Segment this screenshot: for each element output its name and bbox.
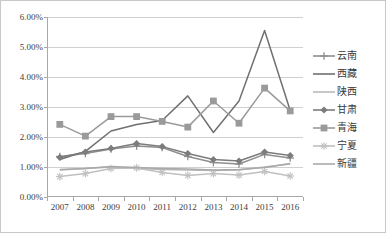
legend-item-青海[interactable]: 青海 [313, 119, 383, 137]
series-plot [47, 17, 303, 197]
x-axis-tick-mark [201, 197, 202, 201]
x-axis-tick-mark [98, 197, 99, 201]
data-point-plus [320, 52, 328, 60]
chart-legend: 云南西藏陕西甘肃青海宁夏新疆 [313, 47, 383, 173]
data-point-diamond [56, 154, 63, 161]
series-line [60, 31, 290, 160]
plot-wrapper: 0.00%1.00%2.00%3.00%4.00%5.00%6.00% 2007… [47, 17, 303, 197]
y-axis-tick-label: 6.00% [20, 13, 43, 22]
x-axis-tick-mark [175, 197, 176, 201]
series-青海 [56, 85, 293, 140]
legend-swatch-icon [313, 85, 335, 99]
data-point-star [286, 172, 294, 180]
series-新疆 [60, 163, 290, 170]
data-point-square [82, 133, 89, 140]
x-axis-tick-mark [124, 197, 125, 201]
legend-item-label: 甘肃 [337, 105, 357, 115]
legend-item-label: 新疆 [337, 159, 357, 169]
x-axis-tick-label: 2014 [230, 203, 248, 212]
x-axis-tick-label: 2013 [204, 203, 222, 212]
legend-swatch-icon [313, 103, 335, 117]
y-axis-tick-label: 4.00% [20, 73, 43, 82]
x-axis-tick-label: 2011 [153, 203, 171, 212]
data-point-star [184, 172, 192, 180]
legend-item-新疆[interactable]: 新疆 [313, 155, 383, 173]
x-axis-tick-mark [252, 197, 253, 201]
legend-item-label: 陕西 [337, 87, 357, 97]
y-axis-tick-label: 5.00% [20, 43, 43, 52]
x-axis-tick-label: 2007 [51, 203, 69, 212]
data-point-star [235, 171, 243, 179]
chart-frame: 0.00%1.00%2.00%3.00%4.00%5.00%6.00% 2007… [0, 0, 386, 233]
x-axis-tick-label: 2009 [102, 203, 120, 212]
data-point-square [56, 121, 63, 128]
data-point-square [287, 108, 294, 115]
data-point-star [82, 170, 90, 178]
x-axis-tick-mark [73, 197, 74, 201]
data-point-star [320, 142, 328, 150]
x-axis-tick-label: 2015 [256, 203, 274, 212]
legend-item-云南[interactable]: 云南 [313, 47, 383, 65]
data-point-square [108, 113, 115, 120]
y-axis-tick-label: 1.00% [20, 163, 43, 172]
x-axis-tick-label: 2008 [76, 203, 94, 212]
data-point-star [56, 173, 64, 181]
data-point-square [261, 85, 268, 92]
series-line [60, 163, 290, 170]
legend-swatch-icon [313, 139, 335, 153]
x-axis-tick-mark [303, 197, 304, 201]
legend-item-label: 宁夏 [337, 141, 357, 151]
data-point-square [159, 118, 166, 125]
legend-item-陕西[interactable]: 陕西 [313, 83, 383, 101]
legend-item-label: 青海 [337, 123, 357, 133]
data-point-square [236, 120, 243, 127]
series-宁夏 [56, 164, 294, 180]
legend-item-label: 云南 [337, 51, 357, 61]
legend-item-甘肃[interactable]: 甘肃 [313, 101, 383, 119]
data-point-diamond [107, 145, 114, 152]
x-axis-tick-label: 2016 [281, 203, 299, 212]
x-axis-tick-label: 2010 [128, 203, 146, 212]
x-axis-tick-mark [226, 197, 227, 201]
data-point-square [184, 124, 191, 131]
legend-item-宁夏[interactable]: 宁夏 [313, 137, 383, 155]
plot-area: 0.00%1.00%2.00%3.00%4.00%5.00%6.00% 2007… [47, 17, 303, 197]
data-point-star [261, 168, 269, 176]
x-axis-tick-mark [149, 197, 150, 201]
x-axis-tick-mark [47, 197, 48, 201]
legend-item-label: 西藏 [337, 69, 357, 79]
data-point-square [210, 98, 217, 105]
legend-swatch-icon [313, 157, 335, 171]
data-point-square [321, 125, 328, 132]
legend-item-西藏[interactable]: 西藏 [313, 65, 383, 83]
series-西藏 [60, 31, 290, 160]
y-axis-tick-label: 2.00% [20, 133, 43, 142]
data-point-square [133, 113, 140, 120]
legend-swatch-icon [313, 121, 335, 135]
data-point-star [158, 169, 166, 177]
data-point-star [210, 170, 218, 178]
x-axis-tick-label: 2012 [179, 203, 197, 212]
data-point-diamond [320, 106, 327, 113]
y-axis-tick-label: 0.00% [20, 193, 43, 202]
legend-swatch-icon [313, 49, 335, 63]
legend-swatch-icon [313, 67, 335, 81]
x-axis-tick-mark [277, 197, 278, 201]
y-axis-tick-label: 3.00% [20, 103, 43, 112]
series-line [60, 88, 290, 136]
